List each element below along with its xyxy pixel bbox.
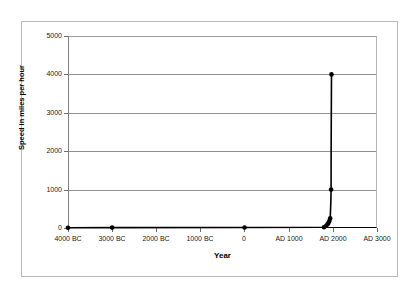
y-tick-label-1000: 1000 <box>28 186 62 194</box>
y-tick-label-3000: 3000 <box>28 109 62 117</box>
y-tick-mark <box>64 74 68 75</box>
x-tick-mark <box>244 228 245 232</box>
plot-frame <box>68 36 377 228</box>
y-tick-mark <box>64 36 68 37</box>
chart-figure: 5000 4000 3000 2000 1000 0 4000 BC 3000 … <box>0 0 419 298</box>
y-axis-title: Speed in miles per hour <box>17 43 26 173</box>
y-tick-mark <box>64 190 68 191</box>
x-tick-mark <box>377 228 378 232</box>
y-tick-label-0: 0 <box>28 224 62 232</box>
x-tick-label-ad3000: AD 3000 <box>349 234 405 243</box>
y-tick-mark <box>64 113 68 114</box>
chart-plot-area: 5000 4000 3000 2000 1000 0 4000 BC 3000 … <box>0 0 419 298</box>
x-axis-title: Year <box>68 251 377 260</box>
x-tick-mark <box>200 228 201 232</box>
y-tick-label-2000: 2000 <box>28 147 62 155</box>
x-tick-mark <box>333 228 334 232</box>
x-tick-mark <box>112 228 113 232</box>
y-tick-mark <box>64 151 68 152</box>
y-tick-label-5000: 5000 <box>28 32 62 40</box>
y-tick-label-4000: 4000 <box>28 70 62 78</box>
x-tick-mark <box>156 228 157 232</box>
x-tick-mark <box>289 228 290 232</box>
x-tick-mark <box>68 228 69 232</box>
